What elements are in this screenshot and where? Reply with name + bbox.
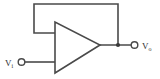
output-label: V o — [142, 41, 152, 52]
input-terminal-circle — [18, 59, 25, 66]
input-label-subscript: i — [12, 63, 14, 69]
output-terminal-circle — [131, 42, 138, 49]
circuit-diagram: V i V o — [0, 0, 160, 79]
junction-dot — [116, 43, 120, 47]
output-label-subscript: o — [149, 46, 152, 52]
input-label: V i — [5, 58, 14, 69]
operational-amplifier-symbol — [55, 22, 100, 73]
